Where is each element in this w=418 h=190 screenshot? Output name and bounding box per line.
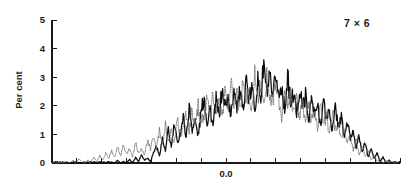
chart-plot-svg: Per cent 012345 0.0 7 × 6 xyxy=(0,0,418,190)
y-tick-label: 2 xyxy=(40,100,45,111)
y-axis-title: Per cent xyxy=(13,70,24,108)
y-tick-label: 5 xyxy=(40,14,46,25)
y-tick-label: 4 xyxy=(40,43,46,54)
chart-series-group xyxy=(52,60,400,163)
y-tick-label: 0 xyxy=(40,157,45,168)
chart-series-dotted xyxy=(52,65,397,163)
y-tick-label: 3 xyxy=(40,72,45,83)
chart-figure: Per cent 012345 0.0 7 × 6 xyxy=(0,0,418,190)
x-tick-label: 0.0 xyxy=(219,168,232,179)
x-axis-ticks: 0.0 xyxy=(52,158,400,179)
chart-series-solid xyxy=(52,60,400,163)
y-tick-label: 1 xyxy=(40,129,46,140)
chart-annotation: 7 × 6 xyxy=(344,17,370,29)
y-axis-ticks: 012345 xyxy=(40,14,57,168)
